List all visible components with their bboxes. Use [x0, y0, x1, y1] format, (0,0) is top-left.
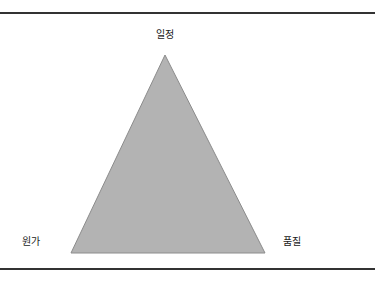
- bottom-divider-rule: [0, 268, 375, 270]
- triangle-graphic: [0, 0, 375, 285]
- vertex-label-schedule: 일정: [0, 29, 330, 41]
- vertex-label-cost: 원가: [22, 236, 40, 248]
- vertex-label-quality: 품질: [283, 236, 301, 248]
- project-constraint-triangle-figure: 일정 원가 품질: [0, 0, 375, 285]
- triangle-shape: [71, 55, 265, 253]
